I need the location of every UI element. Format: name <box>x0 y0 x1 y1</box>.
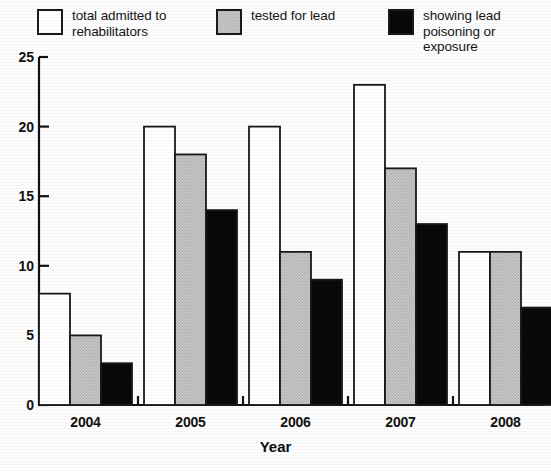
x-axis-tick-label: 2007 <box>366 414 436 430</box>
bar-2007-series-1 <box>354 85 385 405</box>
bar-2005-series-2 <box>175 154 206 405</box>
bar-2004-series-3 <box>101 363 132 405</box>
bar-2004-series-2 <box>70 335 101 405</box>
bar-2006-series-3 <box>311 280 342 405</box>
y-axis-tick-label: 0 <box>2 397 34 413</box>
plot-canvas <box>0 0 551 471</box>
bar-2007-series-2 <box>385 168 416 405</box>
bar-2008-series-2 <box>490 252 521 405</box>
y-axis-tick-label: 5 <box>2 327 34 343</box>
bar-2006-series-1 <box>249 127 280 405</box>
chart-page: total admitted to rehabilitators tested … <box>0 0 551 471</box>
x-axis-title: Year <box>0 438 551 455</box>
x-axis-tick-label: 2004 <box>51 414 121 430</box>
bar-2008-series-3 <box>521 308 551 405</box>
bar-2006-series-2 <box>280 252 311 405</box>
y-axis-tick-label: 10 <box>2 258 34 274</box>
y-axis-tick-labels: 2520151050 <box>0 0 34 471</box>
bar-2008-series-1 <box>459 252 490 405</box>
y-axis-tick-label: 25 <box>2 49 34 65</box>
bar-2005-series-3 <box>206 210 237 405</box>
y-axis-tick-label: 20 <box>2 119 34 135</box>
x-axis-tick-label: 2005 <box>156 414 226 430</box>
x-axis-tick-label: 2008 <box>471 414 541 430</box>
bar-2004-series-1 <box>39 294 70 405</box>
bar-chart-plot: 2520151050 20042005200620072008 Year <box>0 0 551 471</box>
y-axis-tick-label: 15 <box>2 188 34 204</box>
bar-2005-series-1 <box>144 127 175 405</box>
x-axis-tick-label: 2006 <box>261 414 331 430</box>
bar-2007-series-3 <box>416 224 447 405</box>
